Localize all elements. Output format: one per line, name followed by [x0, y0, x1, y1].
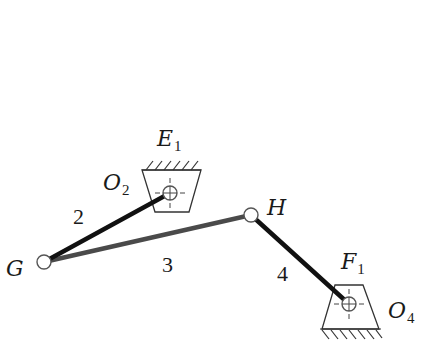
pivot-o4 [342, 297, 356, 311]
joint-g [37, 255, 51, 269]
label-o4: O4 [388, 298, 415, 326]
label-g: G [6, 256, 24, 281]
link-2 [44, 193, 170, 262]
support-f1 [320, 285, 382, 339]
joint-h [244, 208, 258, 222]
pivot-o2 [163, 186, 177, 200]
label-h: H [266, 195, 287, 220]
label-f1: F1 [340, 249, 365, 277]
ground-hatch-e1 [142, 161, 201, 170]
label-link-3: 3 [162, 252, 173, 277]
label-link-4: 4 [277, 261, 288, 286]
linkage-diagram: E1 O2 F1 O4 G H 2 3 4 [0, 0, 428, 352]
label-o2: O2 [103, 170, 130, 198]
ground-hatch-f1 [320, 329, 382, 339]
link-4 [251, 215, 349, 304]
label-link-2: 2 [73, 204, 84, 229]
label-e1: E1 [156, 126, 182, 154]
